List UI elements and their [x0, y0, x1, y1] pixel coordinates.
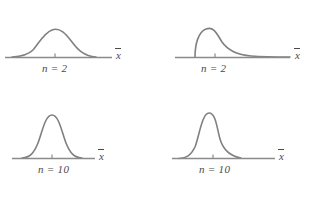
- x-bar-symbol: x: [99, 150, 104, 162]
- panel-bottom-left: n = 10 x: [0, 103, 159, 206]
- x-bar-axis-label: x: [279, 150, 284, 162]
- x-bar-symbol: x: [295, 49, 300, 61]
- x-bar-symbol: x: [279, 150, 284, 162]
- curve-symmetric-narrow: [22, 115, 82, 158]
- curve-right-skewed: [195, 28, 290, 57]
- curve-symmetric-wide: [12, 29, 96, 57]
- panel-top-left: n = 2 x: [0, 0, 159, 103]
- panel-bottom-left-plot: [0, 103, 159, 206]
- x-bar-axis-label: x: [116, 49, 121, 61]
- sample-size-label: n = 2: [42, 62, 67, 74]
- panel-bottom-right-plot: [159, 103, 318, 206]
- sample-size-label: n = 10: [38, 163, 69, 175]
- x-bar-symbol: x: [116, 49, 121, 61]
- x-bar-axis-label: x: [99, 150, 104, 162]
- panel-top-left-plot: [0, 0, 159, 103]
- panel-top-right: n = 2 x: [159, 0, 318, 103]
- sample-size-label: n = 10: [199, 163, 230, 175]
- x-bar-axis-label: x: [295, 49, 300, 61]
- sampling-distributions-figure: n = 2 x n = 2 x n = 10 x: [0, 0, 318, 206]
- sample-size-label: n = 2: [201, 62, 226, 74]
- curve-narrow-right-skewed: [179, 113, 241, 159]
- panel-bottom-right: n = 10 x: [159, 103, 318, 206]
